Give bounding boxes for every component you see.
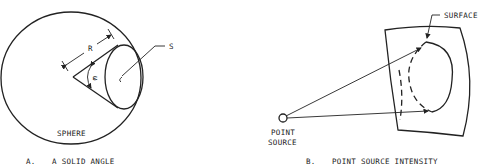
sphere-label: SPHERE	[57, 129, 86, 138]
point-source-marker	[279, 114, 287, 122]
caption-b-letter: B.	[306, 157, 316, 166]
point-source-label-line2: SOURCE	[268, 138, 297, 147]
figure-a-solid-angle: ω R S SPHERE A. A SOLID ANGLE	[1, 12, 174, 166]
caption-b-title: POINT SOURCE INTENSITY	[332, 157, 438, 166]
cone-upper-edge	[73, 45, 118, 77]
surface-squiggle	[120, 77, 122, 82]
surface-leader-line	[122, 46, 165, 76]
dim-arrow-right	[97, 35, 111, 44]
cone-lower-edge	[73, 77, 118, 108]
caption-a-letter: A.	[26, 157, 36, 166]
surface-label: SURFACE	[444, 11, 478, 20]
dim-tick-right	[108, 29, 114, 39]
dim-tick-left	[62, 61, 68, 71]
angle-omega-label: ω	[91, 76, 100, 81]
radius-label: R	[88, 44, 93, 53]
surface-s-label: S	[169, 42, 174, 51]
aperture-front-arc	[426, 42, 452, 112]
ray-lower	[287, 111, 428, 118]
cone-base-surface	[105, 45, 143, 109]
angle-arc	[88, 66, 92, 88]
caption-a-title: A SOLID ANGLE	[52, 157, 115, 166]
sphere-outline	[1, 12, 141, 144]
dim-arrow-left	[66, 53, 84, 65]
figure-b-point-source: POINT SOURCE SURFACE B. POINT SOURCE INT…	[268, 11, 478, 166]
diagram-canvas: ω R S SPHERE A. A SOLID ANGLE POINT SOUR…	[0, 0, 482, 167]
point-source-label-line1: POINT	[271, 128, 295, 137]
